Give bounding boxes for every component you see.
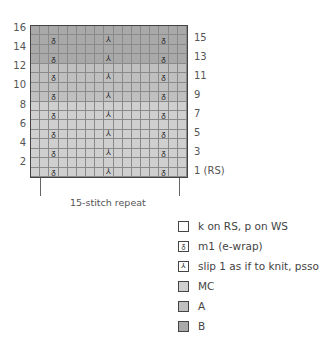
chart-cell [77, 26, 86, 35]
chart-cell [169, 120, 178, 129]
chart-cell [178, 102, 187, 111]
chart-cell: ᵹ [159, 35, 168, 44]
legend-item: k on RS, p on WS [178, 217, 319, 235]
chart-cell: ⅄ [104, 73, 113, 82]
chart-cell [95, 120, 104, 129]
chart-cell [114, 130, 123, 139]
chart-cell [40, 111, 49, 120]
chart-cell [150, 35, 159, 44]
chart-cell [68, 102, 77, 111]
chart-cell [141, 168, 150, 177]
chart-cell [132, 102, 141, 111]
chart-cell [68, 73, 77, 82]
chart-cell [141, 158, 150, 167]
chart-cell [77, 73, 86, 82]
chart-cell [169, 83, 178, 92]
chart-cell [123, 35, 132, 44]
chart-cell [114, 149, 123, 158]
chart-cell [150, 54, 159, 63]
chart-cell [150, 168, 159, 177]
row-number-left: 14 [6, 41, 26, 52]
chart-cell [132, 168, 141, 177]
chart-cell [150, 130, 159, 139]
chart-cell: ⅄ [104, 54, 113, 63]
chart-cell [31, 45, 40, 54]
chart-cell [31, 54, 40, 63]
chart-cell [141, 45, 150, 54]
chart-cell [95, 54, 104, 63]
chart-cell [178, 35, 187, 44]
chart-cell [150, 139, 159, 148]
chart-cell [123, 149, 132, 158]
chart-cell [141, 139, 150, 148]
legend-swatch-icon [178, 221, 189, 232]
chart-cell [104, 45, 113, 54]
chart-cell [169, 26, 178, 35]
repeat-marker-right [179, 178, 180, 196]
chart-cell [40, 92, 49, 101]
chart-cell [141, 111, 150, 120]
chart-cell [132, 158, 141, 167]
chart-cell [59, 102, 68, 111]
chart-cell [178, 158, 187, 167]
chart-cell: ⅄ [104, 149, 113, 158]
chart-cell: ⅄ [104, 35, 113, 44]
chart-cell [77, 45, 86, 54]
chart-cell [40, 83, 49, 92]
chart-cell [141, 92, 150, 101]
chart-cell [169, 73, 178, 82]
chart-cell [40, 102, 49, 111]
chart-cell [31, 26, 40, 35]
chart-cell [59, 26, 68, 35]
chart-cell [77, 92, 86, 101]
chart-cell [132, 26, 141, 35]
chart-cell [86, 120, 95, 129]
chart-cell [150, 158, 159, 167]
legend-swatch-icon [178, 281, 189, 292]
chart-cell: ⅄ [104, 168, 113, 177]
chart-cell [86, 139, 95, 148]
chart-cell [132, 149, 141, 158]
chart-cell [141, 102, 150, 111]
chart-cell [95, 130, 104, 139]
chart-cell [59, 130, 68, 139]
legend-item: ᵹm1 (e-wrap) [178, 237, 319, 255]
chart-cell [169, 64, 178, 73]
chart-cell [169, 111, 178, 120]
chart-cell [114, 92, 123, 101]
chart-cell [178, 168, 187, 177]
chart-cell [86, 102, 95, 111]
chart-cell [123, 130, 132, 139]
chart-grid: ᵹ⅄ᵹᵹ⅄ᵹᵹ⅄ᵹᵹ⅄ᵹᵹ⅄ᵹᵹ⅄ᵹᵹ⅄ᵹᵹ⅄ᵹ [31, 26, 187, 177]
row-number-left: 6 [6, 118, 26, 129]
chart-cell [169, 130, 178, 139]
chart-cell [31, 168, 40, 177]
chart-cell [95, 83, 104, 92]
chart-cell [40, 45, 49, 54]
chart-cell [40, 139, 49, 148]
chart-cell [132, 92, 141, 101]
chart-cell [169, 168, 178, 177]
chart-cell [114, 168, 123, 177]
chart-cell [141, 54, 150, 63]
chart-cell: ᵹ [159, 73, 168, 82]
row-number-left: 16 [6, 22, 26, 33]
chart-cell [86, 83, 95, 92]
chart-cell [86, 158, 95, 167]
chart-cell [123, 158, 132, 167]
row-number-right: 15 [194, 32, 207, 43]
chart-cell [68, 158, 77, 167]
chart-cell [132, 35, 141, 44]
chart-cell [59, 73, 68, 82]
chart-cell [86, 45, 95, 54]
chart-cell [169, 149, 178, 158]
row-number-left: 8 [6, 99, 26, 110]
row-number-left: 4 [6, 137, 26, 148]
chart-cell [86, 92, 95, 101]
chart-cell [178, 83, 187, 92]
chart-cell [114, 26, 123, 35]
chart-cell [59, 35, 68, 44]
chart-cell [178, 45, 187, 54]
chart-cell: ᵹ [159, 130, 168, 139]
chart-cell [178, 139, 187, 148]
